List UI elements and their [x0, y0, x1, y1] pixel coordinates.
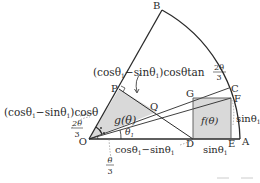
svg-text:θ: θ [108, 156, 113, 165]
label-od-length: cosθ1−sinθ1 [115, 144, 175, 156]
label-a: A [241, 136, 250, 147]
angle-dot-1 [100, 127, 102, 129]
svg-text:3: 3 [74, 130, 79, 139]
label-d: D [186, 138, 194, 149]
top-formula: (cosθ1−sinθ1)cosθtan 2θ 3 [93, 63, 226, 82]
label-b: B [153, 0, 160, 11]
angle-dot-2 [103, 132, 105, 134]
label-p: P [111, 83, 118, 94]
label-g-theta: g(θ) [114, 114, 136, 127]
svg-text:3: 3 [216, 73, 221, 82]
label-e: E [228, 138, 235, 149]
svg-text:2θ: 2θ [71, 119, 82, 128]
svg-text:3: 3 [107, 167, 112, 176]
svg-text:(cosθ1−sinθ1)cosθ: (cosθ1−sinθ1)cosθ [4, 106, 98, 119]
diagram-canvas: O A B C D E F G P Q g(θ) f(θ) (cosθ1−sin… [0, 0, 260, 183]
label-f-theta: f(θ) [200, 115, 219, 126]
left-formula: (cosθ1−sinθ1)cosθ [4, 106, 98, 119]
svg-text:(cosθ1−sinθ1)cosθtan: (cosθ1−sinθ1)cosθtan [93, 66, 205, 79]
label-de-length: sinθ1 [203, 144, 228, 156]
label-theta1: θ1 [125, 127, 134, 138]
angle-arc-theta1 [120, 130, 121, 139]
angle-theta-3: θ 3 [106, 156, 114, 176]
label-f: F [234, 93, 241, 104]
label-o: O [79, 136, 87, 147]
label-q: Q [150, 101, 158, 112]
label-ef-length: sinθ1 [236, 113, 260, 125]
label-g: G [186, 88, 194, 99]
svg-text:2θ: 2θ [214, 63, 224, 72]
